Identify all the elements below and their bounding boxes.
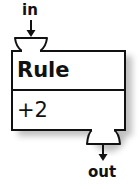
node-title: Rule [17, 60, 70, 81]
diagram-graphics [0, 0, 139, 189]
input-arrow-icon [27, 20, 36, 37]
output-port[interactable] [87, 130, 120, 144]
output-port-label: out [88, 165, 116, 180]
input-port-label: in [22, 3, 38, 18]
node-body: +2 [17, 100, 48, 121]
rule-diagram: in Rule +2 out [0, 0, 139, 189]
input-port[interactable] [15, 38, 47, 51]
